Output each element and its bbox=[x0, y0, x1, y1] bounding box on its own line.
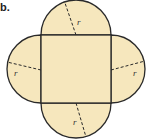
top-semicircle bbox=[41, 0, 111, 35]
diagram: r r r r bbox=[0, 0, 147, 140]
top-radius-label: r bbox=[77, 17, 81, 27]
left-radius-label: r bbox=[14, 68, 18, 78]
bottom-radius-label: r bbox=[73, 117, 77, 127]
center-square bbox=[41, 35, 111, 103]
right-radius-label: r bbox=[133, 68, 137, 78]
